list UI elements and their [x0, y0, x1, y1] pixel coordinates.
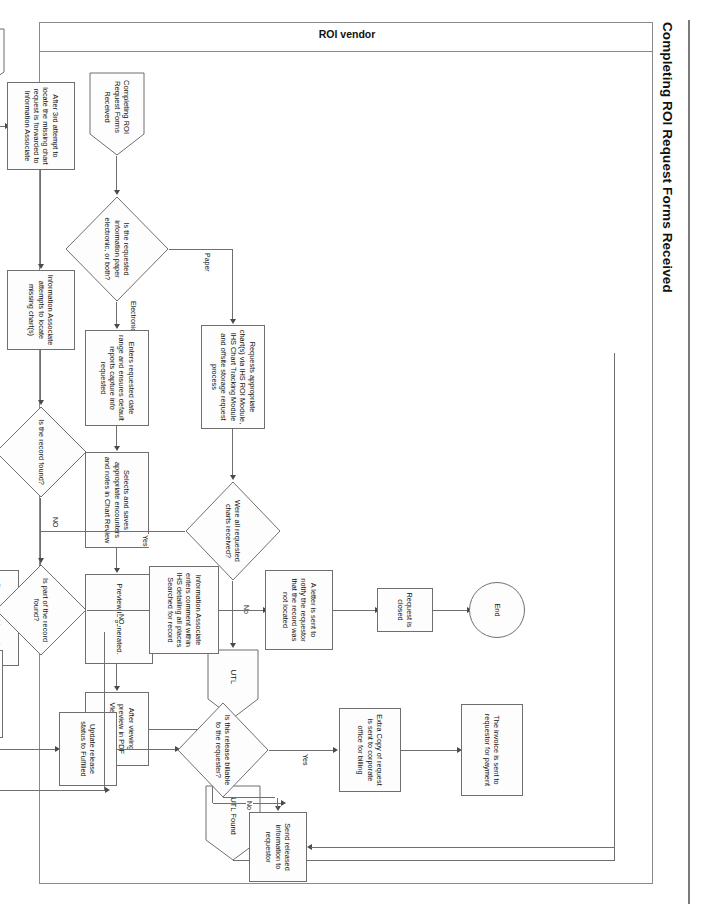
- node-after-3rd-label: After 3rd attempt to locate the missing …: [22, 86, 60, 166]
- edge-no-to-utl: [232, 581, 233, 645]
- edge-preview-to-print: [116, 664, 117, 688]
- node-enter-dates: Enters requested date range and ensures …: [85, 330, 149, 426]
- node-decision-part-found: Is part of the record found?: [0, 564, 87, 656]
- edge-closed-to-end: [433, 610, 467, 611]
- node-ia-locate-label: Information Associate attempts to locate…: [27, 274, 55, 346]
- edge-print-up-arrow: [281, 800, 286, 806]
- node-ia-locate: Information Associate attempts to locate…: [7, 270, 75, 350]
- node-ia-comment-label: Information Associate enters comment wit…: [165, 570, 203, 650]
- edge-label-paper: Paper: [204, 252, 211, 273]
- page-title: Completing ROI Request Forms Received: [660, 22, 675, 293]
- node-extra-copy-label: Extra Copy of request is sent to corpora…: [356, 712, 384, 788]
- edge-label-no-billable: No: [246, 800, 253, 811]
- edge-dates-to-select: [116, 426, 117, 448]
- edge-billable-yes-v: [269, 750, 333, 751]
- node-decision-part-found-label: Is part of the record found?: [0, 564, 87, 656]
- edge-label-yes-billable: Yes: [302, 753, 309, 766]
- edge-docfound-join: [104, 632, 105, 790]
- edge-start-to-media: [116, 156, 117, 192]
- node-start-label: Completing ROI Request Forms Received: [89, 72, 145, 156]
- node-decision-record-found: Is the record found?: [0, 406, 87, 498]
- edge-select-to-preview: [116, 548, 117, 570]
- node-invoice: The invoice is sent to requestor for pay…: [461, 704, 523, 796]
- edge-recordfound-no-arrow: [38, 558, 44, 563]
- edge-electronic-arrow: [114, 324, 120, 329]
- edge-paper-right: [232, 249, 233, 321]
- edge-utlfound-into-send-v: [311, 847, 615, 848]
- edge-after3rd-to-ia-arrow: [38, 264, 44, 269]
- edge-docfound-arrow: [105, 787, 110, 793]
- edge-utlfound-return-h: [614, 353, 615, 861]
- flowchart-canvas: Completing ROI Request Forms Received RO…: [0, 0, 705, 918]
- edge-letter-to-closed: [333, 610, 375, 611]
- node-request-charts: Requests appropriate chart(s) via IHS RO…: [201, 325, 265, 429]
- edge-paper-arrow: [230, 319, 236, 324]
- node-enter-dates-label: Enters requested date range and ensures …: [98, 334, 136, 422]
- edge-recordfound-no: [40, 498, 41, 560]
- node-update-status-label: Update release status to Fulfilled: [79, 716, 98, 782]
- edge-preview-to-print-arrow: [114, 686, 120, 691]
- node-send-released: Send released information to requestor: [249, 812, 307, 882]
- edge-extra-to-invoice: [401, 750, 457, 751]
- edge-select-to-preview-arrow: [114, 568, 120, 573]
- edge-docfound-v: [0, 790, 105, 791]
- node-decision-record-found-label: Is the record found?: [0, 406, 87, 498]
- edge-billable-no-v: [223, 797, 275, 798]
- edge-yes-charts-v1: [41, 531, 185, 532]
- node-letter: A letter is sent to notify the requestor…: [265, 570, 333, 650]
- edge-paper-up: [169, 249, 233, 250]
- edge-after3rd-to-ia: [40, 170, 41, 266]
- node-request-charts-label: Requests appropriate chart(s) via IHS RO…: [209, 329, 256, 425]
- edge-copied-to-update-v: [0, 749, 55, 750]
- node-utl-2-label: UTL: [0, 28, 5, 90]
- edge-start-to-media-arrow: [114, 190, 120, 195]
- node-invoice-label: The invoice is sent to requestor for pay…: [483, 708, 502, 792]
- node-request-closed-label: Request is closed: [396, 592, 415, 628]
- node-letter-label: A letter is sent to notify the requestor…: [280, 574, 318, 646]
- node-utl-2: UTL: [0, 28, 5, 90]
- edge-charts-to-received-arrow: [230, 475, 236, 480]
- node-start: Completing ROI Request Forms Received: [89, 72, 145, 156]
- node-ia-comment: Information Associate enters comment wit…: [149, 566, 219, 654]
- edge-utlfound-into-send-h: [614, 847, 615, 861]
- edge-ia-to-recordfound: [40, 350, 41, 402]
- edge-label-electronic: Electronic: [130, 300, 137, 333]
- node-select-save: Selects and saves appropriate encounters…: [85, 452, 149, 548]
- page-top-rule: [689, 20, 691, 904]
- edge-dates-to-select-arrow: [114, 446, 120, 451]
- node-decision-billable-label: Is this release billable to the requeste…: [177, 702, 269, 798]
- edge-label-yes-charts: Yes: [142, 534, 149, 547]
- edge-electronic-right: [116, 302, 117, 326]
- node-request-closed: Request is closed: [377, 588, 433, 632]
- node-doc-found: Documentation found is sent to requestor…: [0, 650, 3, 738]
- edge-charts-to-received: [232, 429, 233, 477]
- edge-ia-to-recordfound-arrow: [38, 400, 44, 405]
- node-send-released-label: Send released information to requestor: [264, 816, 292, 878]
- edge-label-no-found: NO: [52, 516, 59, 529]
- node-end-label: End: [492, 603, 501, 616]
- node-decision-media: Is the requested information paper elect…: [65, 196, 169, 302]
- node-after-3rd: After 3rd attempt to locate the missing …: [7, 82, 75, 170]
- edge-update-to-billable: [117, 749, 175, 750]
- edge-billable-no-h2: [277, 798, 278, 808]
- node-end: End: [469, 582, 525, 638]
- edge-billable-yes-arrow: [333, 747, 338, 753]
- edge-iacomment-to-letter: [219, 610, 263, 611]
- node-decision-media-label: Is the requested information paper elect…: [65, 196, 169, 302]
- node-decision-billable: Is this release billable to the requeste…: [177, 702, 269, 798]
- edge-label-no-part: NO: [118, 613, 125, 626]
- node-extra-copy: Extra Copy of request is sent to corpora…: [339, 708, 401, 792]
- lane-roi-vendor-label: ROI vendor: [41, 20, 653, 48]
- edge-partfound-no-v: [87, 610, 149, 611]
- node-update-status: Update release status to Fulfilled: [59, 712, 117, 786]
- page-sheet: Completing ROI Request Forms Received RO…: [0, 0, 705, 918]
- edge-no-to-utl-arrow: [230, 643, 236, 648]
